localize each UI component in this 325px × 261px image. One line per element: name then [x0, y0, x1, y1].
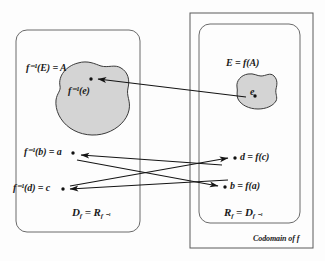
footer-left-eq: =	[85, 206, 91, 218]
arrow-d-to-a	[81, 155, 222, 165]
range-rounded-rect	[199, 24, 300, 223]
label-finv-e: f⁻¹(e)	[68, 86, 90, 96]
point-b	[223, 185, 226, 188]
label-b-equals-fa: b = f(a)	[230, 181, 260, 191]
diagram-graphics	[0, 0, 325, 261]
label-d-equals-fc: d = f(c)	[240, 152, 269, 162]
point-c	[61, 187, 64, 190]
footer-left-sub1: f	[80, 212, 82, 219]
label-E-equals-fA: E = f(A)	[226, 58, 259, 68]
label-finv-d-equals-c: f⁻¹(d) = c	[13, 183, 50, 193]
label-codomain-of-f: Codomain of f	[253, 235, 299, 243]
figure-canvas: f⁻¹(E) = A f⁻¹(e) E = f(A) e f⁻¹(b) = a …	[0, 0, 325, 261]
footer-right-main2: D	[245, 206, 253, 218]
label-finv-E-equals-A: f⁻¹(E) = A	[26, 63, 67, 73]
footer-right-sub2: f ⁻¹	[253, 212, 263, 219]
footer-left-sub2: f ⁻¹	[101, 212, 111, 219]
point-finv-e	[89, 77, 92, 80]
footer-left-main2: R	[94, 206, 101, 218]
set-E-blob	[237, 74, 277, 109]
label-finv-b-equals-a: f⁻¹(b) = a	[24, 147, 62, 157]
footer-left-main: D	[72, 206, 80, 218]
point-d	[233, 156, 236, 159]
footer-right-eq: =	[236, 206, 242, 218]
label-e: e	[250, 87, 254, 97]
label-range-equals-domain-inverse: Rf = Df ⁻¹	[224, 207, 262, 220]
label-domain-equals-range-inverse: Df = Rf ⁻¹	[72, 207, 110, 220]
point-a	[71, 151, 74, 154]
footer-right-sub1: f	[231, 212, 233, 219]
